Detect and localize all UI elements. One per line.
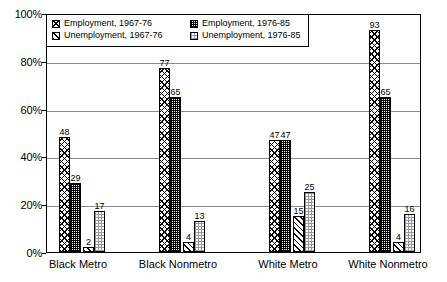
bar-value-label: 93 — [369, 21, 379, 30]
bar: 4 — [393, 242, 404, 252]
bar-value-label: 65 — [380, 88, 390, 97]
y-axis-tick-label: 20% — [0, 200, 42, 210]
y-axis-tick-label: 40% — [0, 152, 42, 162]
y-axis-tick-label: 80% — [0, 57, 42, 67]
bar-value-label: 16 — [404, 205, 414, 214]
bar: 93 — [369, 30, 380, 252]
bar: 65 — [380, 97, 391, 252]
bar-chart: 0%20%40%60%80%100% 482921777654134747152… — [0, 0, 447, 282]
legend-label: Unemployment, 1976-85 — [202, 31, 301, 40]
legend-swatch-employment-1976-85 — [190, 20, 198, 28]
bar-value-label: 4 — [396, 233, 401, 242]
x-axis-category-label: Black Nonmetro — [139, 258, 217, 270]
bar-group: 9365416 — [47, 15, 422, 252]
y-axis-tick-label: 0% — [0, 248, 42, 258]
chart-legend: Employment, 1967-76 Employment, 1976-85 … — [46, 14, 309, 47]
legend-swatch-unemployment-1967-76 — [52, 32, 60, 40]
legend-row: Unemployment, 1967-76 Unemployment, 1976… — [52, 30, 303, 41]
legend-label: Employment, 1976-85 — [202, 19, 290, 28]
legend-row: Employment, 1967-76 Employment, 1976-85 — [52, 18, 303, 29]
bar: 16 — [404, 214, 415, 252]
legend-swatch-employment-1967-76 — [52, 20, 60, 28]
legend-item-employment-1967-76: Employment, 1967-76 — [52, 19, 190, 28]
y-axis-tick-label: 60% — [0, 105, 42, 115]
x-axis-category-label: White Nonmetro — [348, 258, 427, 270]
legend-item-employment-1976-85: Employment, 1976-85 — [190, 19, 290, 28]
y-axis-tick-mark — [42, 253, 46, 254]
y-axis-tick-label: 100% — [0, 9, 42, 19]
legend-label: Unemployment, 1967-76 — [64, 31, 163, 40]
x-axis-category-label: White Metro — [258, 258, 317, 270]
x-axis-category-label: Black Metro — [49, 258, 107, 270]
legend-item-unemployment-1976-85: Unemployment, 1976-85 — [190, 31, 301, 40]
plot-area: 48292177765413474715259365416 — [46, 14, 421, 253]
legend-swatch-unemployment-1976-85 — [190, 32, 198, 40]
legend-item-unemployment-1967-76: Unemployment, 1967-76 — [52, 31, 190, 40]
legend-label: Employment, 1967-76 — [64, 19, 152, 28]
